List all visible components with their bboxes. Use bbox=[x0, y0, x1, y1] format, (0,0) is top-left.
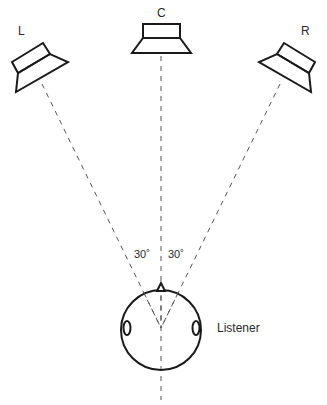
right-speaker-line bbox=[161, 84, 280, 328]
left-ear-icon bbox=[124, 321, 131, 335]
right-ear-icon bbox=[193, 321, 200, 335]
right-angle-label: 30˚ bbox=[168, 248, 184, 260]
left-speaker-line bbox=[42, 84, 161, 328]
center-speaker-label: C bbox=[157, 6, 166, 20]
left-speaker-icon bbox=[12, 43, 68, 92]
sight-lines bbox=[42, 56, 280, 400]
left-angle-label: 30˚ bbox=[134, 248, 150, 260]
center-speaker-icon bbox=[132, 24, 191, 53]
listener-label: Listener bbox=[217, 321, 260, 335]
diagram-svg: L C R 30˚ 30˚ Listen bbox=[0, 0, 327, 405]
left-speaker-label: L bbox=[18, 24, 25, 38]
right-speaker-label: R bbox=[301, 24, 310, 38]
right-speaker-icon bbox=[259, 43, 315, 92]
nose-icon bbox=[157, 283, 165, 291]
speaker-layout-diagram: L C R 30˚ 30˚ Listen bbox=[0, 0, 327, 405]
